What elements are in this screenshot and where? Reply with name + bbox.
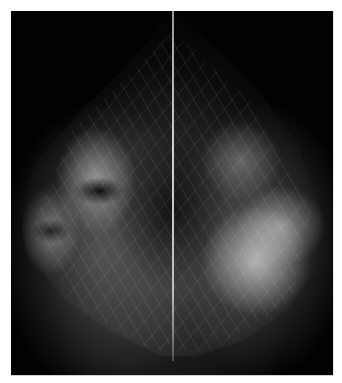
center-divider-line xyxy=(172,11,174,361)
mammogram-image xyxy=(11,11,334,376)
